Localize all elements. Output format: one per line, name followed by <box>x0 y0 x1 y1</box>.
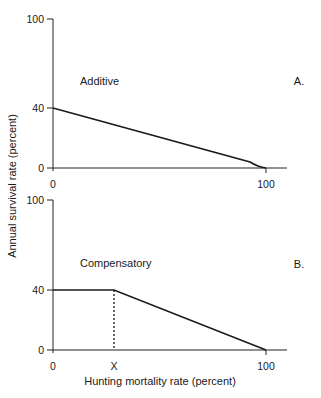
compensatory-line <box>53 290 266 350</box>
x-tick-x-b: X <box>110 360 117 372</box>
panel-a-label: A. <box>294 75 304 87</box>
y-tick-100-a: 100 <box>26 13 44 25</box>
y-tick-0-b: 0 <box>38 344 44 356</box>
survival-charts: 100 40 0 0 100 Additive A. 100 40 0 0 X … <box>0 0 321 398</box>
compensatory-label: Compensatory <box>80 257 152 269</box>
x-tick-100-b: 100 <box>257 360 275 372</box>
y-axis-title: Annual survival rate (percent) <box>6 114 18 258</box>
y-tick-40-a: 40 <box>32 102 44 114</box>
x-tick-0-b: 0 <box>50 360 56 372</box>
x-axis-title: Hunting mortality rate (percent) <box>84 375 236 387</box>
additive-label: Additive <box>80 75 119 87</box>
y-tick-40-b: 40 <box>32 284 44 296</box>
chart-additive: 100 40 0 0 100 Additive A. <box>26 13 304 190</box>
additive-line <box>53 108 266 168</box>
y-tick-0-a: 0 <box>38 162 44 174</box>
y-tick-100-b: 100 <box>26 194 44 206</box>
panel-b-label: B. <box>294 258 304 270</box>
chart-compensatory: 100 40 0 0 X 100 Compensatory B. Hunting… <box>26 194 304 387</box>
x-tick-100-a: 100 <box>257 178 275 190</box>
x-tick-0-a: 0 <box>50 178 56 190</box>
